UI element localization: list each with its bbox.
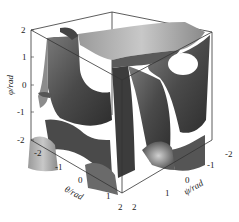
y-tick-label: 1: [165, 188, 170, 198]
x-tick-label: -1: [55, 162, 63, 172]
z-axis-title: φ/rad: [5, 75, 15, 95]
x-tick-label: 2: [118, 202, 123, 212]
z-tick-label: -2: [17, 135, 25, 145]
y-tick-label: -2: [225, 149, 233, 159]
z-tick-label: 0: [22, 80, 27, 90]
z-tick-label: -1: [17, 107, 25, 117]
x-tick-label: 0: [78, 175, 83, 185]
z-tick-label: 2: [21, 25, 26, 35]
y-tick-label: 2: [132, 202, 137, 212]
x-axis-title: θ/rad: [63, 184, 85, 202]
x-tick-label: -2: [34, 148, 42, 158]
x-tick-label: 1: [106, 191, 111, 201]
z-tick-label: 1: [22, 52, 27, 62]
surface-plot-3d: 2 1 0 -1 -2 φ/rad -2 -1 0 1 2 θ/rad 2 1 …: [0, 0, 239, 222]
y-tick-label: -1: [207, 160, 215, 170]
z-axis: [31, 30, 34, 140]
